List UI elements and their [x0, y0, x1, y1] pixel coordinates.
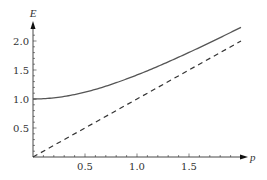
series-solid-curve: [33, 27, 241, 99]
x-tick-label: 0.5: [77, 161, 93, 172]
chart: 0.51.01.50.51.01.52.0 E p: [0, 0, 267, 180]
x-axis-label: p: [249, 151, 256, 163]
x-tick-label: 1.0: [129, 161, 145, 172]
axis-labels: E p: [29, 7, 256, 163]
y-axis-arrow-icon: [31, 21, 36, 29]
x-tick-label: 1.5: [181, 161, 197, 172]
x-axis-arrow-icon: [240, 155, 248, 160]
series-dashed-line: [33, 41, 241, 157]
y-tick-label: 2.0: [13, 36, 29, 47]
y-tick-label: 1.0: [13, 94, 29, 105]
y-tick-label: 1.5: [13, 65, 29, 76]
y-axis-label: E: [29, 7, 37, 19]
plot-series: [33, 27, 241, 157]
y-tick-label: 0.5: [13, 123, 29, 134]
axes: 0.51.01.50.51.01.52.0: [13, 21, 248, 172]
